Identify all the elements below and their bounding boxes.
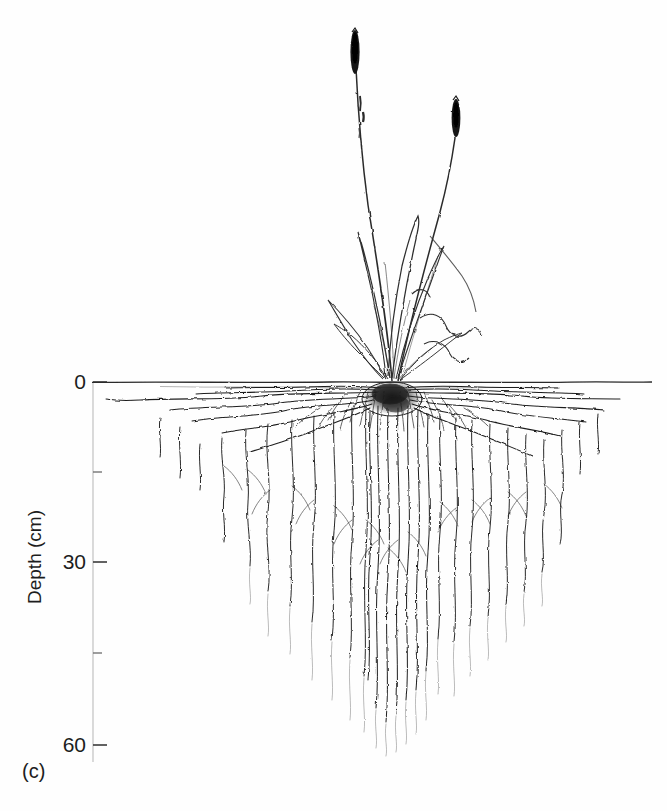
inflorescence-left [350, 28, 359, 74]
axis-title-depth: Depth (cm) [24, 502, 46, 612]
inflorescence-right [452, 96, 461, 137]
axis-tick-label-60: 60 [44, 733, 86, 757]
root-profile-figure: 0 30 60 Depth (cm) (c) [0, 0, 667, 811]
lateral-roots-right [404, 386, 620, 456]
axis-tick-label-0: 0 [54, 370, 86, 394]
root-tips-deep [249, 568, 542, 756]
axis-tick-label-30: 30 [44, 550, 86, 574]
deep-roots-left [159, 406, 367, 676]
root-system-drawing [0, 0, 667, 811]
shoot-system [328, 28, 482, 381]
lateral-roots-left [106, 386, 380, 452]
culm-left [356, 68, 394, 381]
leaf-blades [328, 216, 462, 380]
root-system [106, 382, 620, 756]
curled-leaf-tips [412, 290, 482, 362]
depth-axis [93, 382, 107, 762]
fine-rootlets [224, 466, 562, 572]
deep-roots-right [438, 414, 599, 642]
panel-label: (c) [22, 760, 45, 783]
deep-roots-center [368, 406, 429, 722]
